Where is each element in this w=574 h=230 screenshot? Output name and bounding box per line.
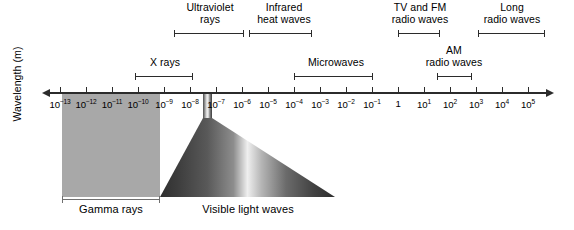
bracket-bar — [249, 33, 312, 34]
axis-tick-label: 10−13 — [49, 98, 70, 110]
bracket-cap-right — [192, 73, 193, 80]
caption-gamma-rays: Gamma rays — [60, 203, 162, 215]
bracket-cap-right — [439, 30, 440, 37]
axis-tick — [216, 87, 217, 92]
band-bracket-ultraviolet — [174, 30, 244, 37]
axis-tick-label: 10−4 — [285, 98, 303, 110]
bracket-cap-right — [311, 30, 312, 37]
band-label-long-radio: Long radio waves — [466, 2, 558, 25]
bracket-cap-left — [398, 30, 399, 37]
bracket-cap-left — [294, 73, 295, 80]
band-label-tv-fm-radio: TV and FM radio waves — [374, 2, 466, 25]
gamma-rule-cap-right — [159, 196, 160, 203]
axis-tick — [190, 87, 191, 92]
band-label-text: Infrared heat waves — [238, 2, 330, 25]
axis-tick — [450, 87, 451, 92]
band-bracket-am-radio — [437, 73, 472, 80]
band-bracket-tv-fm-radio — [398, 30, 440, 37]
bracket-bar — [294, 76, 373, 77]
axis-tick — [294, 87, 295, 92]
bracket-cap-left — [135, 73, 136, 80]
bracket-cap-right — [544, 30, 545, 37]
axis-tick-label: 10−6 — [233, 98, 251, 110]
axis-tick — [60, 87, 61, 92]
bracket-cap-right — [471, 73, 472, 80]
band-bracket-microwaves — [294, 73, 373, 80]
axis-tick-label: 101 — [417, 98, 431, 110]
electromagnetic-spectrum-diagram: Wavelength (m) — [0, 0, 574, 230]
band-label-text: AM radio waves — [408, 45, 500, 68]
band-label-text: Microwaves — [291, 57, 381, 69]
bracket-bar — [135, 76, 193, 77]
bracket-bar — [478, 33, 545, 34]
axis-tick-label: 10−1 — [363, 98, 381, 110]
axis-tick — [320, 87, 321, 92]
gamma-rays-extent-rule — [62, 199, 160, 200]
axis-tick — [476, 87, 477, 92]
axis-tick — [138, 87, 139, 92]
bracket-cap-right — [372, 73, 373, 80]
bracket-cap-left — [249, 30, 250, 37]
axis-tick — [372, 87, 373, 92]
axis-tick-label: 10−10 — [127, 98, 148, 110]
caption-visible-light: Visible light waves — [178, 203, 318, 215]
axis-tick — [164, 87, 165, 92]
axis-tick-label: 10−12 — [75, 98, 96, 110]
bracket-cap-right — [243, 30, 244, 37]
y-axis-title: Wavelength (m) — [11, 29, 23, 139]
axis-tick-label: 104 — [495, 98, 509, 110]
axis-tick-label: 10−2 — [337, 98, 355, 110]
band-label-text: X rays — [125, 57, 205, 69]
bracket-cap-left — [478, 30, 479, 37]
axis-tick-label: 10−11 — [102, 98, 123, 110]
bracket-cap-left — [174, 30, 175, 37]
band-label-text: Long radio waves — [466, 2, 558, 25]
axis-arrow-left-icon — [42, 89, 50, 97]
band-bracket-infrared — [249, 30, 312, 37]
axis-tick — [346, 87, 347, 92]
axis-tick — [398, 87, 399, 92]
axis-tick-label: 10−8 — [181, 98, 199, 110]
axis-tick — [112, 87, 113, 92]
band-bracket-long-radio — [478, 30, 545, 37]
axis-line — [48, 92, 548, 94]
gamma-rule-cap-left — [62, 196, 63, 203]
bracket-bar — [398, 33, 440, 34]
axis-tick-label: 10−9 — [155, 98, 173, 110]
axis-tick — [502, 87, 503, 92]
band-label-text: TV and FM radio waves — [374, 2, 466, 25]
band-label-microwaves: Microwaves — [291, 57, 381, 69]
band-label-am-radio: AM radio waves — [408, 45, 500, 68]
band-label-infrared: Infrared heat waves — [238, 2, 330, 25]
axis-tick-label: 10−3 — [311, 98, 329, 110]
bracket-bar — [174, 33, 244, 34]
axis-tick — [86, 87, 87, 92]
axis-tick — [242, 87, 243, 92]
bracket-bar — [437, 76, 472, 77]
wavelength-axis: 10−1310−1210−1110−1010−910−810−710−610−5… — [42, 92, 554, 94]
bracket-cap-left — [437, 73, 438, 80]
axis-tick-label: 1 — [395, 98, 400, 109]
axis-tick-label: 10−7 — [207, 98, 225, 110]
axis-tick-label: 103 — [469, 98, 483, 110]
axis-tick — [528, 87, 529, 92]
axis-tick-label: 10−5 — [259, 98, 277, 110]
axis-tick — [268, 87, 269, 92]
axis-tick-label: 102 — [443, 98, 457, 110]
band-bracket-x-rays — [135, 73, 193, 80]
axis-arrow-right-icon — [546, 89, 554, 97]
axis-tick-label: 105 — [521, 98, 535, 110]
band-label-x-rays: X rays — [125, 57, 205, 69]
axis-tick — [424, 87, 425, 92]
